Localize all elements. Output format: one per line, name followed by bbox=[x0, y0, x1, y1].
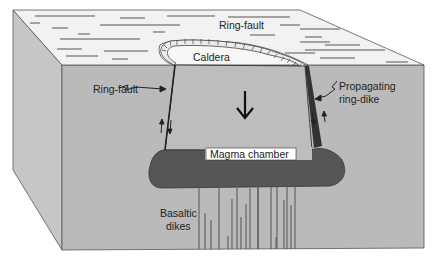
propagating-label-line2: ring-dike bbox=[339, 93, 379, 105]
magma-chamber-label: Magma chamber bbox=[206, 148, 296, 160]
caldera-diagram: Magma chamber bbox=[0, 0, 434, 261]
caldera-label: Caldera bbox=[193, 51, 230, 63]
ring-fault-top-label: Ring-fault bbox=[219, 19, 264, 31]
propagating-label-line1: Propagating bbox=[339, 80, 396, 92]
basaltic-dikes-label-line2: dikes bbox=[166, 220, 191, 232]
ring-fault-left-label: Ring-fault bbox=[93, 83, 138, 95]
svg-text:Magma chamber: Magma chamber bbox=[210, 148, 289, 160]
subsiding-piston-block bbox=[165, 65, 312, 150]
basaltic-dikes-label-line1: Basaltic bbox=[160, 207, 197, 219]
